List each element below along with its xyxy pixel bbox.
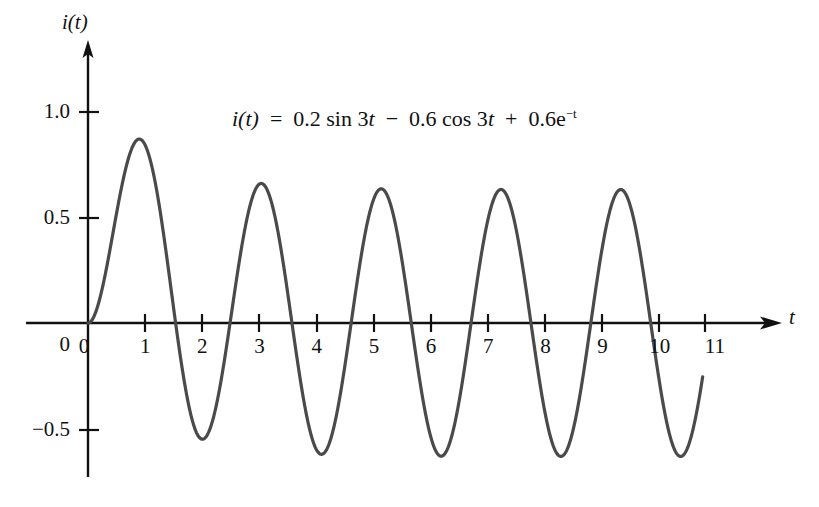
y-axis-title: i(t) xyxy=(62,12,88,33)
y-tick-label-minus0.5: −0.5 xyxy=(6,419,70,440)
x-tick-label-11: 11 xyxy=(700,336,730,357)
x-tick-label-6: 6 xyxy=(416,336,446,357)
x-tick-label-8: 8 xyxy=(530,336,560,357)
equation-plus: + xyxy=(505,106,517,131)
x-tick-label-9: 9 xyxy=(588,336,618,357)
x-tick-label-0: 0 xyxy=(69,336,99,357)
y-tick-label-0.5: 0.5 xyxy=(14,207,70,228)
equation-equals: = xyxy=(270,106,282,131)
y-tick-label-0: 0 xyxy=(14,334,70,355)
x-axis-title: t xyxy=(789,307,795,328)
equation-minus: − xyxy=(386,106,398,131)
equation-term-3: 0.6e xyxy=(528,106,565,131)
equation-term-2: 0.6 cos 3 xyxy=(409,106,488,131)
x-tick-label-2: 2 xyxy=(187,336,217,357)
equation-annotation: i(t) = 0.2 sin 3t − 0.6 cos 3t + 0.6e−t xyxy=(232,106,577,132)
x-tick-label-4: 4 xyxy=(302,336,332,357)
equation-exponent: −t xyxy=(566,106,577,121)
y-tick-label-1.0: 1.0 xyxy=(14,101,70,122)
signal-curve xyxy=(88,139,703,456)
equation-term-1: 0.2 sin 3 xyxy=(293,106,368,131)
x-tick-label-1: 1 xyxy=(130,336,160,357)
x-tick-label-3: 3 xyxy=(245,336,275,357)
x-tick-label-5: 5 xyxy=(359,336,389,357)
chart-figure xyxy=(0,0,819,507)
x-tick-label-7: 7 xyxy=(473,336,503,357)
x-tick-label-10: 10 xyxy=(645,336,675,357)
equation-lhs: i(t) xyxy=(232,106,259,131)
